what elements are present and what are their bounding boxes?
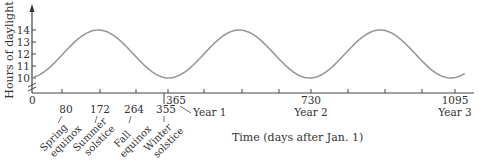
x-axis-title: Time (days after Jan. 1) [232,131,363,144]
year-2-label: Year 2 [293,106,328,118]
annotation-day-264: 264 [124,103,144,115]
y-axis-arrow-icon [30,4,35,12]
daylight-curve [32,30,465,78]
x-tick-label-730: 730 [301,94,321,106]
annotation-fall-equinox: Fall equinox [110,115,154,159]
x-tick-label-1095: 1095 [442,94,469,106]
x-tick-label-0: 0 [29,94,36,106]
annotation-pointers [58,116,164,123]
year-3-label: Year 3 [437,106,472,118]
y-tick-label-13: 13 [17,36,30,48]
year-1-label: Year 1 [192,106,227,118]
y-axis-title: Hours of daylight [3,1,16,99]
y-tick-label-11: 11 [17,60,30,72]
annotation-summer-solstice: Summer solstice [71,115,117,161]
daylight-chart: 14 13 12 11 10 Hours of daylight 0 365 7… [0,0,482,164]
annotation-day-80: 80 [59,103,72,115]
annotation-day-355: 355 [156,103,176,115]
y-tick-label-12: 12 [17,48,30,60]
annotation-day-172: 172 [90,103,110,115]
y-tick-label-14: 14 [17,24,31,36]
y-tick-label-10: 10 [17,72,30,84]
year-1-pointer [180,106,191,113]
annotation-winter-solstice: Winter solstice [142,117,186,161]
